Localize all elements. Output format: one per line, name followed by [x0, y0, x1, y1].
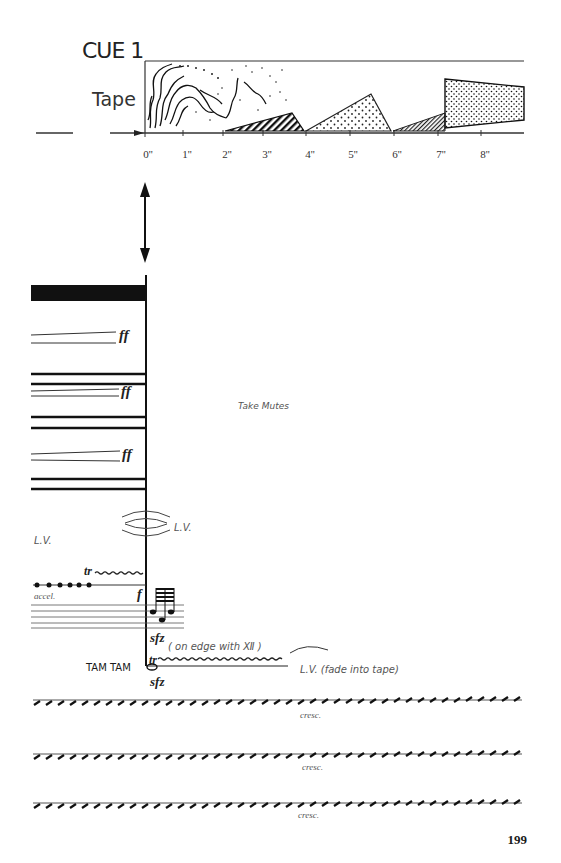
page-number: 199 — [508, 832, 528, 848]
dynamic-ff-3: ff — [122, 446, 132, 463]
trill-label-1: tr — [84, 564, 92, 579]
on-edge-text: ( on edge with Ⅻ ) — [168, 641, 262, 652]
cluster-block — [31, 285, 146, 301]
lv-right-text: L.V. — [174, 522, 192, 533]
dynamic-sfz-1: sfz — [150, 630, 164, 646]
tremolo-rows — [33, 697, 522, 808]
dynamic-ff-1: ff — [119, 327, 129, 344]
lv-fade-text: L.V. (fade into tape) — [300, 664, 399, 675]
cresc-text-1: cresc. — [300, 710, 321, 720]
dynamic-f: f — [137, 587, 142, 603]
dynamic-ff-2: ff — [121, 383, 131, 400]
dynamic-sfz-2: sfz — [150, 674, 164, 690]
tape-graphic — [36, 61, 524, 137]
score-graphics — [0, 0, 561, 863]
cresc-text-3: cresc. — [298, 810, 319, 820]
trill-label-2: tr — [149, 653, 157, 668]
lv-left-text: L.V. — [34, 535, 52, 546]
double-arrow-icon — [140, 182, 150, 263]
cresc-text-2: cresc. — [302, 762, 323, 772]
tam-tam-label: TAM TAM — [86, 662, 131, 673]
accel-text: accel. — [34, 591, 55, 601]
take-mutes-text: Take Mutes — [238, 401, 289, 411]
